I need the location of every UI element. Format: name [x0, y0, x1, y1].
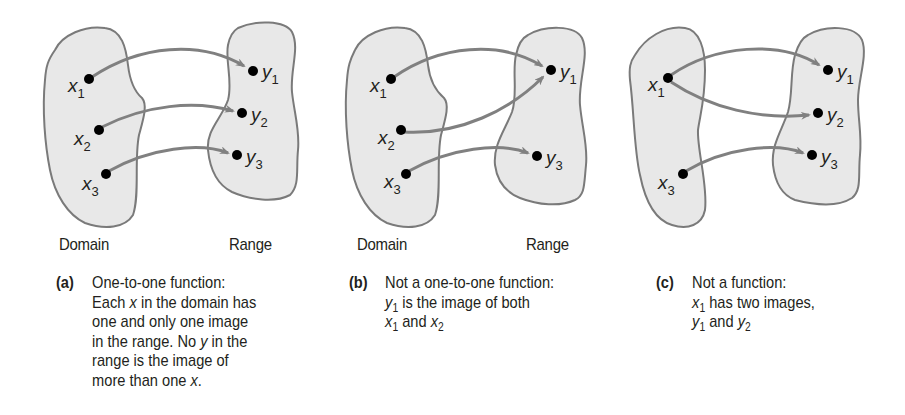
- point-x2: [94, 125, 104, 135]
- caption-line: y1 and y2: [692, 312, 815, 332]
- caption-line: x1 has two images,: [692, 293, 815, 313]
- caption-tag-a: (a): [56, 273, 74, 293]
- domain-label-a: Domain: [59, 235, 109, 255]
- caption-tag-c: (c): [656, 273, 674, 293]
- caption-line: Each x in the domain has: [92, 293, 256, 313]
- point-x1: [386, 74, 396, 84]
- point-y3: [807, 150, 817, 160]
- caption-line: in the range. No y in the: [92, 332, 256, 352]
- caption-line: one and only one image: [92, 312, 256, 332]
- range-set-b: [495, 28, 587, 205]
- panel-c-diagram: x1 x3 y1 y2 y3: [630, 28, 864, 227]
- point-y2: [813, 108, 823, 118]
- point-y1: [248, 66, 258, 76]
- point-y3: [532, 151, 542, 161]
- caption-line: more than one x.: [92, 371, 256, 391]
- caption-line: range is the image of: [92, 351, 256, 371]
- caption-line: One-to-one function:: [92, 273, 256, 293]
- caption-body-a: One-to-one function: Each x in the domai…: [92, 273, 256, 390]
- caption-tag-b: (b): [349, 273, 368, 293]
- domain-label-b: Domain: [357, 235, 407, 255]
- caption-body-c: Not a function: x1 has two images, y1 an…: [692, 273, 815, 332]
- panel-b-diagram: x1 x2 x3 y1 y3: [346, 27, 587, 227]
- range-label-a: Range: [229, 235, 272, 255]
- point-x1: [663, 73, 673, 83]
- point-x3: [678, 169, 688, 179]
- point-x3: [401, 169, 411, 179]
- caption-line: x1 and x2: [385, 312, 554, 332]
- point-y1: [823, 65, 833, 75]
- point-x2: [396, 125, 406, 135]
- point-x1: [84, 74, 94, 84]
- function-mapping-diagrams: x1 x2 x3 y1 y2 y3 x1 x2 x3 y1 y3 x1: [0, 0, 905, 260]
- caption-line: y1 is the image of both: [385, 293, 554, 313]
- caption-body-b: Not a one-to-one function: y1 is the ima…: [385, 273, 554, 332]
- point-y2: [237, 108, 247, 118]
- panel-a-diagram: x1 x2 x3 y1 y2 y3: [44, 22, 299, 227]
- range-label-b: Range: [526, 235, 569, 255]
- caption-line: Not a one-to-one function:: [385, 273, 554, 293]
- point-y1: [546, 65, 556, 75]
- point-x3: [101, 169, 111, 179]
- caption-line: Not a function:: [692, 273, 815, 293]
- point-y3: [232, 150, 242, 160]
